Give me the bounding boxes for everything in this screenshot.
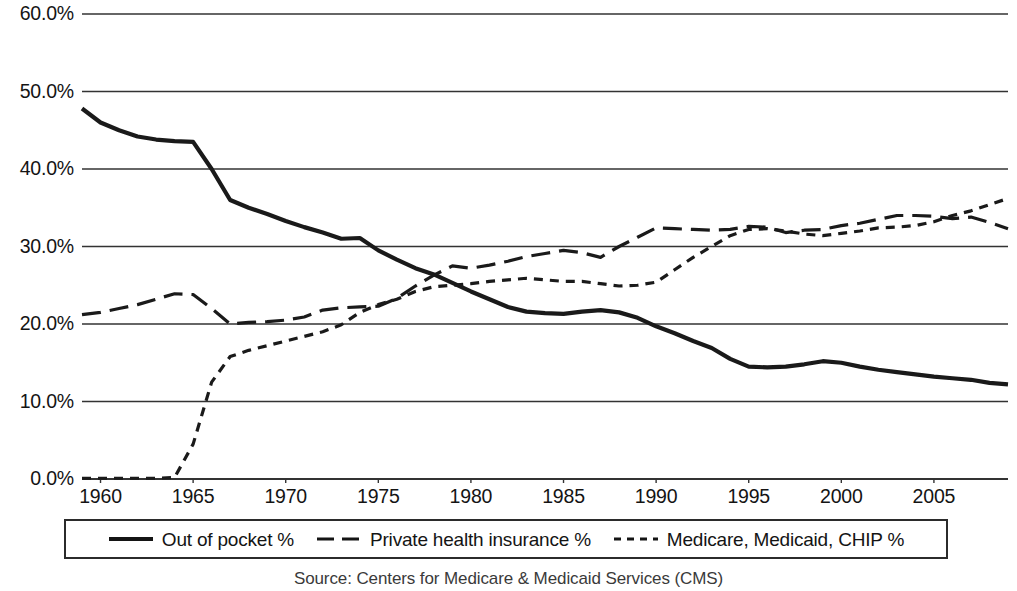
y-tick-label-50.0%: 50.0%: [0, 82, 74, 102]
y-tick-label-10.0%: 10.0%: [0, 392, 74, 412]
y-tick-label-30.0%: 30.0%: [0, 237, 74, 257]
legend-label: Medicare, Medicaid, CHIP %: [667, 530, 904, 549]
x-tick-label-1990: 1990: [621, 487, 691, 507]
x-tick-label-2005: 2005: [899, 487, 969, 507]
legend-label: Private health insurance %: [370, 530, 591, 549]
legend-swatch-dashed-short: [613, 532, 659, 546]
legend-label: Out of pocket %: [162, 530, 294, 549]
y-tick-label-60.0%: 60.0%: [0, 4, 74, 24]
y-tick-label-40.0%: 40.0%: [0, 159, 74, 179]
legend-item-medicare-medicaid-chip[interactable]: Medicare, Medicaid, CHIP %: [602, 530, 915, 549]
x-tick-label-1980: 1980: [436, 487, 506, 507]
plot-area: 0.0%10.0%20.0%30.0%40.0%50.0%60.0% 19601…: [0, 0, 1017, 500]
source-caption: Source: Centers for Medicare & Medicaid …: [0, 569, 1017, 589]
y-tick-label-0.0%: 0.0%: [0, 469, 74, 489]
legend-swatch-solid: [108, 532, 154, 546]
series-group: [82, 109, 1008, 479]
x-tick-label-1995: 1995: [714, 487, 784, 507]
chart-svg: [0, 0, 1017, 500]
legend-swatch-dashed-long: [316, 532, 362, 546]
y-tick-label-20.0%: 20.0%: [0, 314, 74, 334]
gridlines-group: [82, 14, 1008, 483]
x-tick-label-1965: 1965: [158, 487, 228, 507]
x-tick-label-1960: 1960: [66, 487, 136, 507]
x-tick-label-1970: 1970: [251, 487, 321, 507]
legend-item-private-health-insurance[interactable]: Private health insurance %: [305, 530, 602, 549]
chart-container: 0.0%10.0%20.0%30.0%40.0%50.0%60.0% 19601…: [0, 0, 1017, 591]
series-line-medicare-medicaid-chip: [82, 198, 1008, 478]
x-tick-label-1975: 1975: [343, 487, 413, 507]
series-line-private-health-insurance: [82, 216, 1008, 325]
x-tick-label-1985: 1985: [529, 487, 599, 507]
chart-legend: Out of pocket %Private health insurance …: [64, 519, 948, 559]
legend-item-out-of-pocket[interactable]: Out of pocket %: [97, 530, 305, 549]
x-tick-label-2000: 2000: [806, 487, 876, 507]
